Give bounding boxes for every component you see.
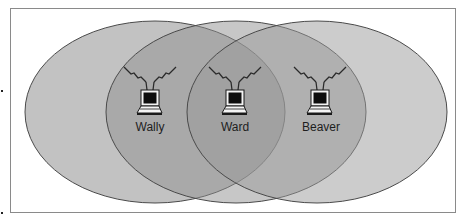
coverage-diagram xyxy=(0,0,466,220)
node-label-wally: Wally xyxy=(110,120,190,134)
node-label-beaver: Beaver xyxy=(281,120,361,134)
node-label-ward: Ward xyxy=(195,120,275,134)
